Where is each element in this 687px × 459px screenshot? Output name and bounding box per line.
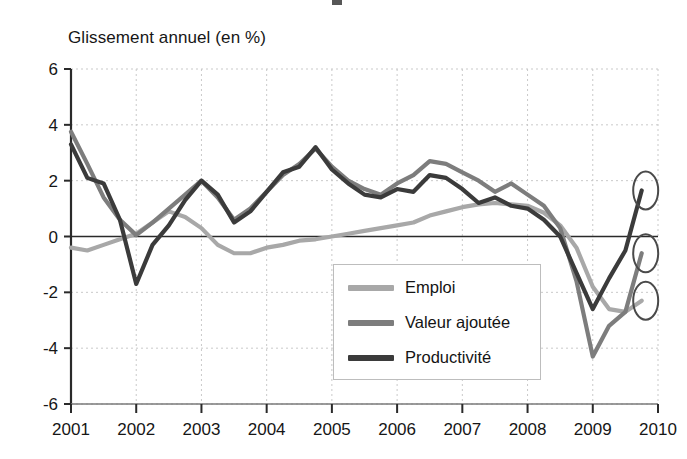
y-tick-label: -2 [43,283,58,302]
legend-item-emploi: Emploi [348,278,455,297]
legend-label: Emploi [405,278,455,297]
legend-swatch-icon [348,320,394,326]
endpoint-highlight-ellipse [633,234,658,272]
x-tick-label: 2001 [52,420,90,439]
x-tick-label: 2006 [378,420,416,439]
y-tick-label: 0 [49,228,58,247]
x-tick-label: 2005 [313,420,351,439]
x-tick-label: 2002 [117,420,155,439]
x-tick-label: 2003 [183,420,221,439]
y-tick-label: 6 [49,60,58,79]
y-tick-label: 4 [49,116,58,135]
y-tick-label: -6 [43,395,58,414]
x-tick-label: 2004 [248,420,286,439]
x-tick-label: 2007 [443,420,481,439]
y-tick-label: 2 [49,172,58,191]
y-tick-label: -4 [43,339,58,358]
endpoint-highlight-ellipse [633,282,658,320]
legend-swatch-icon [348,355,394,361]
endpoint-highlight-ellipse [633,171,658,209]
x-tick-label: 2010 [639,420,677,439]
line-chart-svg: 6420-2-4-6200120022003200420052006200720… [0,0,687,459]
chart-container: Glissement annuel (en %) 6420-2-4-620012… [0,0,687,459]
legend-swatch-icon [348,285,394,291]
legend-item-valeur-ajout-e: Valeur ajoutée [348,313,510,332]
x-tick-label: 2008 [509,420,547,439]
legend-label: Productivité [405,348,491,367]
x-tick-label: 2009 [574,420,612,439]
legend-label: Valeur ajoutée [405,313,510,332]
legend-item-productivit-: Productivité [348,348,491,367]
